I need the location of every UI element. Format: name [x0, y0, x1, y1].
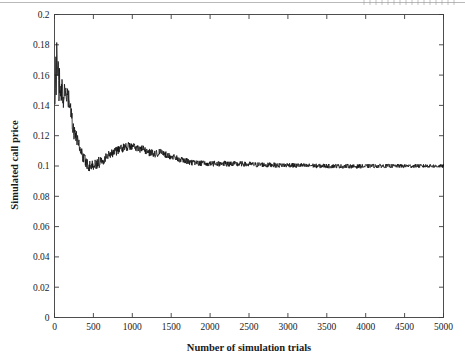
x-tick-label: 1500	[162, 322, 181, 332]
x-tick-label: 4500	[395, 322, 414, 332]
y-tick-label: 0.1	[38, 161, 50, 171]
x-axis-tick-labels: 0500100015002000250030003500400045005000	[52, 322, 453, 332]
x-axis-title: Number of simulation trials	[187, 342, 311, 353]
x-tick-label: 500	[86, 322, 101, 332]
figure-panel: 0500100015002000250030003500400045005000…	[0, 0, 465, 360]
y-tick-label: 0.14	[33, 101, 50, 111]
y-tick-label: 0.18	[33, 40, 50, 50]
data-series-lines	[55, 42, 443, 171]
y-tick-label: 0.12	[33, 131, 50, 141]
y-tick-label: 0.08	[33, 192, 50, 202]
line-chart: 0500100015002000250030003500400045005000…	[0, 0, 465, 360]
y-tick-label: 0.06	[33, 222, 50, 232]
x-tick-label: 2500	[240, 322, 259, 332]
y-tick-label: 0	[45, 313, 50, 323]
series-line	[55, 42, 443, 171]
x-tick-label: 1000	[123, 322, 142, 332]
y-tick-label: 0.02	[33, 283, 50, 293]
x-tick-label: 2000	[201, 322, 220, 332]
y-tick-label: 0.16	[33, 71, 50, 81]
y-axis-title: Simulated call price	[9, 120, 20, 210]
y-axis-tick-labels: 00.020.040.060.080.10.120.140.160.180.2	[33, 10, 50, 323]
x-tick-label: 5000	[434, 322, 453, 332]
x-tick-label: 4000	[356, 322, 375, 332]
x-tick-label: 3500	[317, 322, 336, 332]
x-tick-label: 3000	[278, 322, 297, 332]
y-tick-label: 0.2	[38, 10, 50, 20]
x-tick-label: 0	[52, 322, 57, 332]
y-tick-label: 0.04	[33, 252, 50, 262]
